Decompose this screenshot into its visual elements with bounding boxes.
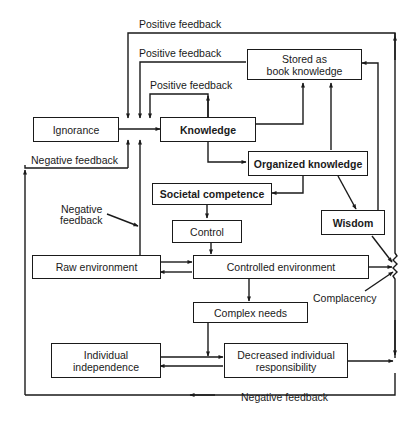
knowledge-box: Knowledge: [160, 117, 256, 142]
individual-independence-line1: Individual: [84, 349, 128, 361]
stored-label-line1: Stored as: [282, 53, 327, 65]
controlled-environment-box: Controlled environment: [193, 255, 369, 279]
decreased-responsibility-line1: Decreased individual: [237, 349, 334, 361]
wisdom-label: Wisdom: [333, 217, 374, 229]
stored-book-knowledge-box: Stored as book knowledge: [247, 49, 362, 80]
organized-knowledge-box: Organized knowledge: [248, 151, 368, 176]
organized-knowledge-label: Organized knowledge: [254, 158, 363, 170]
control-label: Control: [190, 226, 224, 238]
decreased-responsibility-line2: responsibility: [256, 361, 317, 373]
decreased-responsibility-box: Decreased individual responsibility: [224, 343, 348, 378]
complacency-label: Complacency: [313, 292, 377, 304]
complex-needs-box: Complex needs: [193, 302, 308, 323]
raw-environment-box: Raw environment: [32, 255, 161, 279]
negative-feedback-label-bottom: Negative feedback: [241, 391, 328, 403]
control-box: Control: [172, 220, 242, 243]
raw-environment-label: Raw environment: [56, 261, 138, 273]
ignorance-box: Ignorance: [33, 117, 119, 142]
stored-label-line2: book knowledge: [267, 65, 343, 77]
controlled-environment-label: Controlled environment: [227, 261, 336, 273]
positive-feedback-label-inner: Positive feedback: [150, 79, 232, 91]
individual-independence-line2: independence: [73, 361, 139, 373]
wisdom-box: Wisdom: [321, 210, 385, 235]
positive-feedback-label-middle: Positive feedback: [139, 47, 221, 59]
complex-needs-label: Complex needs: [214, 307, 287, 319]
knowledge-label: Knowledge: [180, 124, 236, 136]
negative-feedback-label-left: Negative feedback: [31, 154, 118, 166]
positive-feedback-label-outer: Positive feedback: [139, 18, 221, 30]
societal-competence-label: Societal competence: [160, 188, 264, 200]
negative-feedback-label-raw-line2: feedback: [60, 214, 103, 226]
ignorance-label: Ignorance: [53, 124, 100, 136]
societal-competence-box: Societal competence: [152, 183, 272, 205]
individual-independence-box: Individual independence: [51, 343, 161, 378]
